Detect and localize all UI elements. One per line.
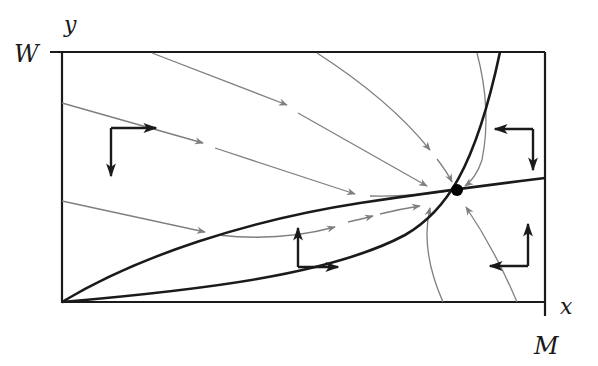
direction-arrow-lower-right (490, 224, 528, 266)
trajectory-top-left-b (298, 113, 427, 186)
trajectories (62, 53, 517, 302)
phase-plane-diagram: y W x M (0, 0, 598, 366)
axes-frame (50, 52, 545, 316)
y-max-label: W (14, 42, 39, 66)
direction-indicators (111, 128, 533, 267)
direction-arrow-upper-left (111, 128, 156, 176)
shallow-nullcline (62, 178, 545, 302)
trajectory-left-upper-b (215, 148, 355, 194)
trajectory-bottom-a (427, 208, 443, 302)
trajectory-top-left-a (152, 53, 287, 105)
trajectory-left-lower-b (218, 227, 335, 237)
phase-plane-svg (0, 0, 598, 366)
trajectory-left-lower-a (62, 201, 205, 232)
trajectory-top-mid-b (437, 159, 452, 182)
trajectory-left-lower-c (348, 216, 373, 222)
x-max-label: M (534, 334, 559, 358)
steep-nullcline (62, 52, 500, 302)
trajectory-left-upper-a (62, 103, 203, 143)
y-axis-label: y (64, 14, 76, 36)
trajectory-bottom-b (466, 207, 517, 302)
x-axis-label: x (560, 296, 572, 318)
trajectory-left-lower-d (380, 206, 420, 214)
equilibrium-point (451, 184, 463, 196)
direction-arrow-upper-right (495, 129, 533, 170)
trajectory-top-mid-a (317, 53, 430, 150)
